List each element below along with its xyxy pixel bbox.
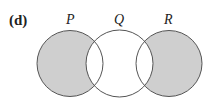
venn-diagram bbox=[0, 0, 214, 107]
